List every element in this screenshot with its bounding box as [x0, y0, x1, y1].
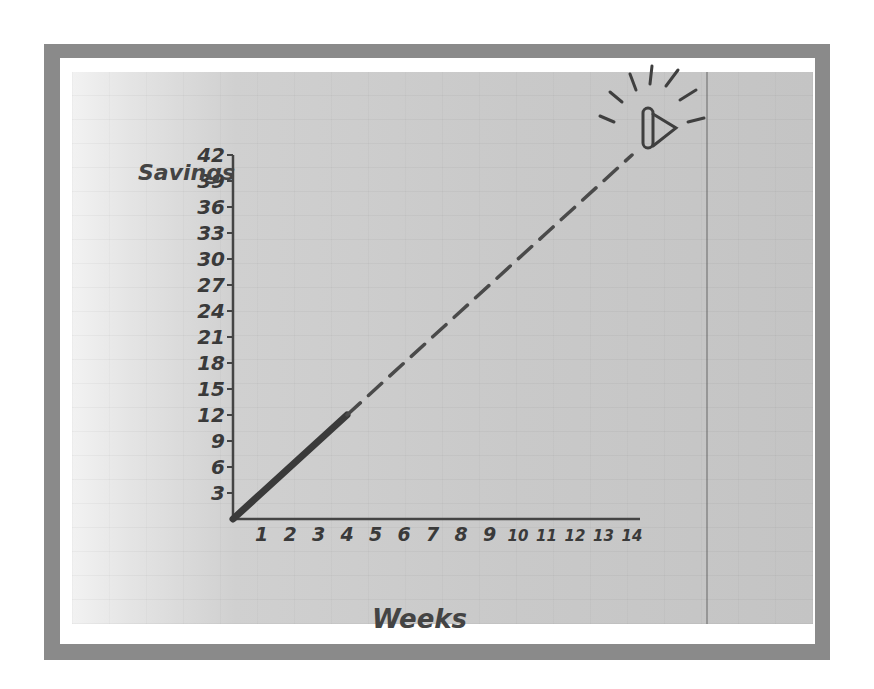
actual-savings-line — [233, 415, 347, 519]
x-tick-label: 7 — [426, 523, 440, 545]
x-tick-label: 5 — [369, 523, 382, 545]
x-tick-label: 6 — [397, 523, 410, 545]
x-tick-label: 11 — [536, 527, 557, 545]
y-axis-ticks: 3691215182124273033363942 — [196, 143, 233, 505]
y-tick-label: 9 — [211, 429, 225, 453]
y-tick-label: 15 — [197, 377, 225, 401]
ringing-bell-icon — [600, 66, 704, 148]
y-tick-label: 18 — [197, 351, 225, 375]
x-tick-label: 13 — [593, 527, 614, 545]
x-tick-label: 8 — [454, 523, 467, 545]
projected-savings-line — [347, 155, 632, 415]
x-axis-title: Weeks — [372, 604, 467, 634]
y-tick-label: 3 — [211, 481, 225, 505]
savings-chart: 3691215182124273033363942 12345678910111… — [0, 0, 874, 689]
x-tick-label: 14 — [622, 527, 643, 545]
y-tick-label: 24 — [197, 299, 225, 323]
y-tick-label: 6 — [211, 455, 225, 479]
x-tick-label: 9 — [483, 523, 496, 545]
y-tick-label: 30 — [197, 247, 225, 271]
x-tick-label: 10 — [508, 527, 529, 545]
x-axis-ticks: 1234567891011121314 — [255, 523, 643, 545]
y-tick-label: 21 — [197, 325, 225, 349]
x-tick-label: 3 — [312, 523, 325, 545]
y-axis-title: Savings — [138, 160, 235, 185]
y-tick-label: 33 — [197, 221, 225, 245]
y-tick-label: 12 — [197, 403, 225, 427]
x-tick-label: 2 — [283, 523, 296, 545]
y-tick-label: 27 — [197, 273, 225, 297]
x-tick-label: 1 — [255, 523, 268, 545]
x-tick-label: 12 — [565, 527, 586, 545]
x-tick-label: 4 — [339, 523, 353, 545]
y-tick-label: 36 — [197, 195, 225, 219]
